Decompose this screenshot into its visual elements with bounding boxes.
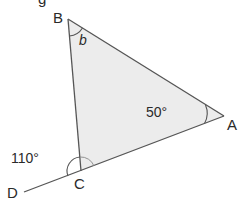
vertex-label-d: D bbox=[7, 184, 18, 201]
triangle-fill bbox=[68, 19, 224, 171]
angle-label-a: 50° bbox=[146, 104, 167, 120]
vertex-label-b: B bbox=[53, 9, 63, 26]
vertex-label-c: C bbox=[74, 175, 85, 192]
cropped-text: g bbox=[38, 0, 46, 7]
triangle-diagram: g B A C D b 50° 110° bbox=[0, 0, 244, 201]
angle-label-b: b bbox=[79, 32, 87, 48]
vertex-label-a: A bbox=[227, 116, 237, 133]
angle-label-exterior-c: 110° bbox=[11, 150, 39, 166]
